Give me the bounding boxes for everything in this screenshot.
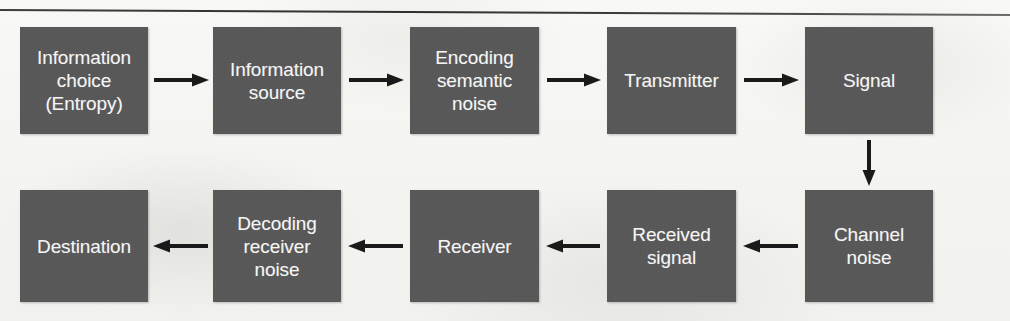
node-destination[interactable]: Destination: [20, 190, 148, 302]
node-label: Receiver: [431, 235, 517, 258]
node-label: Signal: [837, 69, 901, 92]
node-label: Informationsource: [224, 58, 330, 104]
arrow-signal-to-channel-noise-icon: [861, 139, 877, 187]
arrow-decoding-to-destination-icon: [152, 238, 210, 254]
node-channel-noise[interactable]: Channelnoise: [805, 190, 933, 302]
node-information-source[interactable]: Informationsource: [213, 27, 341, 134]
top-divider-rule: [0, 9, 1010, 16]
node-label: Decodingreceivernoise: [231, 212, 322, 281]
arrow-source-to-encoding-icon: [347, 72, 405, 88]
arrow-encoding-to-transmitter-icon: [545, 72, 602, 88]
node-decoding-receiver-noise[interactable]: Decodingreceivernoise: [213, 190, 341, 302]
node-label: Channelnoise: [828, 223, 910, 269]
arrow-transmitter-to-signal-icon: [742, 72, 800, 88]
node-label: Receivedsignal: [626, 223, 716, 269]
node-label: Informationchoice(Entropy): [31, 46, 137, 115]
node-received-signal[interactable]: Receivedsignal: [607, 190, 736, 302]
node-encoding-semantic-noise[interactable]: Encodingsemanticnoise: [410, 27, 539, 134]
node-transmitter[interactable]: Transmitter: [607, 27, 736, 134]
node-signal[interactable]: Signal: [805, 27, 933, 134]
node-label: Transmitter: [618, 69, 724, 92]
node-receiver[interactable]: Receiver: [410, 190, 539, 302]
arrow-receiver-to-decoding-icon: [347, 238, 405, 254]
arrow-channel-noise-to-received-signal-icon: [742, 238, 800, 254]
arrow-choice-to-source-icon: [152, 72, 210, 88]
arrow-received-signal-to-receiver-icon: [545, 238, 602, 254]
node-information-choice-entropy[interactable]: Informationchoice(Entropy): [20, 27, 148, 134]
node-label: Encodingsemanticnoise: [429, 46, 519, 115]
node-label: Destination: [31, 235, 137, 258]
diagram-canvas: Informationchoice(Entropy) Informationso…: [0, 0, 1010, 321]
